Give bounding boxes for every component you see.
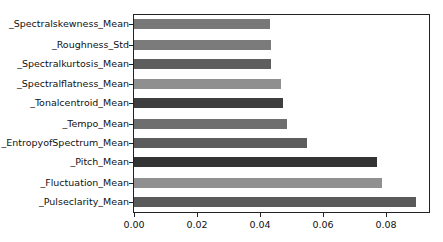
y-tick-label: _EntropyofSpectrum_Mean (2, 137, 130, 149)
y-tick (129, 143, 133, 144)
x-tick-label: 0.06 (303, 219, 343, 230)
y-tick-label: _Pulseclarity_Mean (39, 196, 129, 208)
bar (134, 19, 270, 29)
y-tick (129, 162, 133, 163)
y-tick-label: _Tempo_Mean (62, 118, 129, 130)
y-tick (129, 84, 133, 85)
x-tick (323, 213, 324, 217)
bar (134, 157, 377, 167)
bar (134, 40, 271, 50)
bar (134, 59, 271, 69)
y-tick (129, 183, 133, 184)
y-tick-label: _Spectralkurtosis_Mean (17, 58, 129, 70)
y-tick (129, 103, 133, 104)
bar (134, 138, 307, 148)
plot-area (133, 14, 430, 213)
bar (134, 98, 283, 108)
y-tick (129, 64, 133, 65)
bar (134, 79, 281, 89)
x-tick (260, 213, 261, 217)
bar (134, 197, 416, 207)
x-tick-label: 0.04 (240, 219, 280, 230)
y-tick (129, 24, 133, 25)
x-tick (134, 213, 135, 217)
y-tick (129, 45, 133, 46)
x-tick-label: 0.08 (366, 219, 406, 230)
x-tick (197, 213, 198, 217)
bar (134, 178, 382, 188)
x-tick (386, 213, 387, 217)
y-tick-label: _Spectralflatness_Mean (17, 78, 129, 90)
feature-importance-chart: _Spectralskewness_Mean_Roughness_Std_Spe… (0, 0, 443, 242)
bar (134, 119, 287, 129)
y-tick-label: _Fluctuation_Mean (41, 177, 130, 189)
y-tick-label: _Roughness_Std (52, 39, 129, 51)
y-tick-label: _Pitch_Mean (70, 156, 129, 168)
y-tick (129, 202, 133, 203)
y-tick (129, 124, 133, 125)
x-tick-label: 0.00 (114, 219, 154, 230)
x-tick-label: 0.02 (177, 219, 217, 230)
y-tick-label: _Spectralskewness_Mean (9, 18, 129, 30)
y-tick-label: _Tonalcentroid_Mean (30, 97, 129, 109)
